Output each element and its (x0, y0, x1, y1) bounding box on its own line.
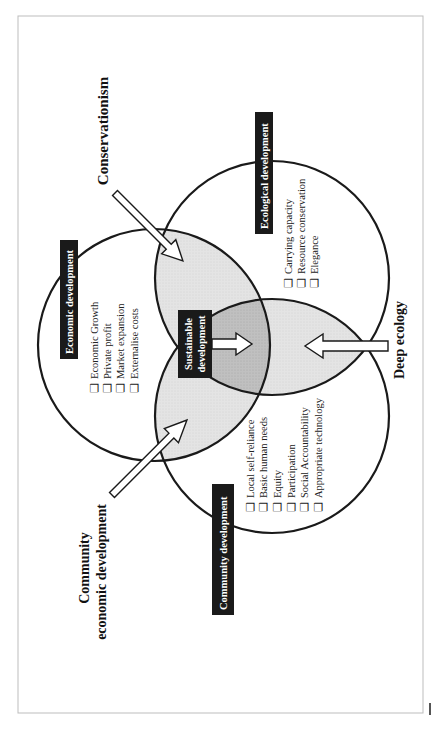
list-item: ❑Resource conservation (296, 178, 307, 288)
svg-text:Economic development: Economic development (64, 249, 75, 354)
margin-mark (429, 703, 431, 715)
svg-text:Community development: Community development (218, 496, 229, 610)
sustainable-development-venn-diagram: Economic development ❑Economic Growth ❑P… (0, 0, 433, 731)
list-item: ❑Social Accountability (299, 407, 310, 512)
economic-development-label: Economic development (60, 240, 78, 359)
list-item: ❑Economic Growth (89, 301, 100, 393)
list-item: ❑Local self-reliance (245, 419, 256, 512)
svg-text:Sustainable: Sustainable (183, 318, 194, 370)
community-development-label: Community development (212, 484, 234, 615)
list-item: ❑Appropriate technology (313, 397, 324, 512)
ecological-development-label: Ecological development (255, 112, 273, 234)
economic-items: ❑Economic Growth ❑Private profit ❑Market… (89, 301, 140, 393)
community-economic-label-line1: Community (77, 532, 92, 604)
sustainable-development-label: Sustainable development (178, 310, 212, 378)
list-item: ❑Market expansion (115, 303, 126, 393)
list-item: ❑Basic human needs (258, 417, 269, 512)
svg-text:development: development (196, 315, 207, 373)
list-item: ❑Equity (272, 469, 283, 512)
conservationism-label: Conservationism (95, 76, 111, 185)
svg-text:Ecological development: Ecological development (259, 123, 270, 229)
list-item: ❑Elegance (309, 235, 320, 288)
deep-ecology-label: Deep ecology (392, 301, 407, 379)
community-economic-label-line2: economic development (94, 504, 109, 640)
list-item: ❑Carrying capacity (283, 198, 294, 288)
